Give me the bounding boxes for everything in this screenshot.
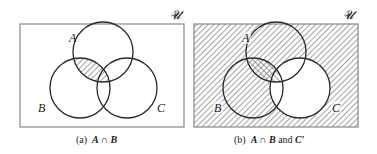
caption-and: and — [278, 134, 292, 145]
caption-prefix: (b) — [234, 134, 246, 145]
caption-b: (b) A ∩ B and C′ — [234, 134, 305, 145]
label-c: C — [157, 101, 166, 115]
caption-prefix: (a) — [76, 134, 87, 145]
circle-c — [97, 58, 157, 118]
label-c: C — [332, 101, 341, 115]
caption-expression-2: C′ — [295, 134, 304, 145]
circle-c — [270, 58, 330, 118]
caption-expression: A ∩ B — [251, 134, 276, 145]
venn-diagrams: A B C 𝓤 A B C 𝓤 — [0, 0, 377, 154]
panel-a: A B C 𝓤 — [20, 8, 185, 127]
label-b: B — [38, 101, 46, 115]
universe-label: 𝓤 — [170, 8, 185, 22]
label-a: A — [241, 31, 250, 45]
label-a: A — [68, 31, 77, 45]
caption-expression: A ∩ B — [92, 134, 117, 145]
label-b: B — [214, 101, 222, 115]
panel-b: A B C 𝓤 — [194, 8, 358, 127]
universe-label: 𝓤 — [343, 8, 358, 22]
caption-a: (a) A ∩ B — [76, 134, 117, 145]
